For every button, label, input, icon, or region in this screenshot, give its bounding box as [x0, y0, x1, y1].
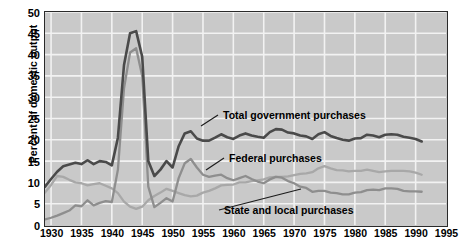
y-tick-5: 5 [34, 199, 40, 210]
x-tick-1955: 1955 [192, 228, 215, 239]
y-tick-20: 20 [28, 135, 40, 146]
annotation-label-state-and-local-purchases: State and local purchases [224, 205, 354, 216]
y-tick-30: 30 [28, 92, 40, 103]
x-tick-1950: 1950 [161, 228, 184, 239]
x-tick-1995: 1995 [435, 228, 458, 239]
y-tick-25: 25 [28, 114, 40, 125]
x-tick-1990: 1990 [404, 228, 427, 239]
y-tick-10: 10 [28, 177, 40, 188]
x-tick-1930: 1930 [40, 228, 63, 239]
y-tick-15: 15 [28, 156, 40, 167]
x-tick-1940: 1940 [101, 228, 124, 239]
x-tick-1960: 1960 [222, 228, 245, 239]
x-axis-tick-labels: 1930193519401945195019551960196519701975… [0, 228, 459, 244]
x-tick-1985: 1985 [374, 228, 397, 239]
annotation-label-total-government-purchases: Total government purchases [223, 110, 366, 121]
y-tick-50: 50 [28, 7, 40, 18]
y-tick-40: 40 [28, 50, 40, 61]
y-tick-45: 45 [28, 28, 40, 39]
x-tick-1945: 1945 [131, 228, 154, 239]
y-tick-35: 35 [28, 71, 40, 82]
y-axis-tick-labels: 05101520253035404550 [18, 0, 40, 244]
x-tick-1965: 1965 [253, 228, 276, 239]
annotation-label-federal-purchases: Federal purchases [229, 153, 322, 164]
x-tick-1935: 1935 [70, 228, 93, 239]
chart-figure: Percent of domestic output 0510152025303… [0, 0, 459, 244]
x-tick-1975: 1975 [313, 228, 336, 239]
x-tick-1980: 1980 [344, 228, 367, 239]
x-tick-1970: 1970 [283, 228, 306, 239]
